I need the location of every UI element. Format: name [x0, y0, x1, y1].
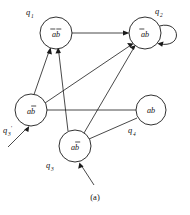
node-q3prime-label: ab	[27, 107, 35, 116]
node-q3-name-letter: q	[46, 161, 50, 170]
node-q3prime-name: q 3 '	[3, 125, 12, 137]
node-q1-name-letter: q	[26, 8, 30, 17]
node-q1-name-subscript: 1	[31, 13, 34, 19]
node-q3prime-name-subscript: 3	[7, 131, 11, 137]
edge-q3-to-q2	[84, 45, 136, 133]
node-q2-label: ab	[141, 30, 149, 39]
node-q2-name-subscript: 2	[160, 12, 163, 18]
node-q4-name: q 4	[128, 126, 136, 137]
figure-caption: (a)	[90, 192, 100, 202]
node-q4-name-subscript: 4	[133, 131, 136, 137]
node-q3-name-subscript: 3	[50, 166, 54, 172]
node-q1-label: ab	[52, 30, 60, 39]
node-q3-name: q 3	[46, 161, 54, 172]
edge-q3prime-to-q1	[34, 47, 52, 94]
node-q1[interactable]: ab q 1	[26, 8, 72, 49]
node-q4[interactable]: ab q 4	[128, 95, 166, 137]
node-q4-label: ab	[147, 106, 155, 115]
arrowhead	[123, 30, 130, 35]
node-q3[interactable]: ab q 3	[46, 130, 91, 172]
node-q3prime-name-prime: '	[11, 125, 12, 131]
node-q3-label: ab	[71, 143, 79, 152]
node-q2-name: q 2	[155, 7, 163, 18]
arrowhead	[24, 126, 29, 132]
node-q1-name: q 1	[26, 8, 34, 19]
edge-q1-to-q2	[72, 30, 130, 35]
node-q2-name-letter: q	[155, 7, 159, 16]
start-arrow-q3	[78, 163, 94, 186]
node-q4-name-letter: q	[128, 126, 132, 135]
node-q2[interactable]: ab q 2	[129, 7, 163, 49]
node-q3prime-name-letter: q	[3, 126, 7, 135]
state-diagram-figure: ab q 1 ab q 2 ab q 3 '	[0, 0, 190, 215]
